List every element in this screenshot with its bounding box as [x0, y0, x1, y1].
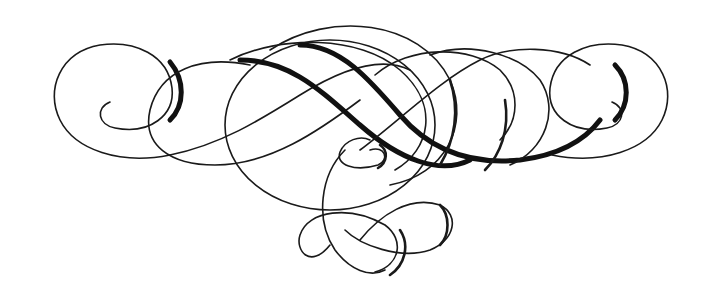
flourish-icon: [0, 0, 725, 301]
flourish-ornament: [0, 0, 725, 301]
